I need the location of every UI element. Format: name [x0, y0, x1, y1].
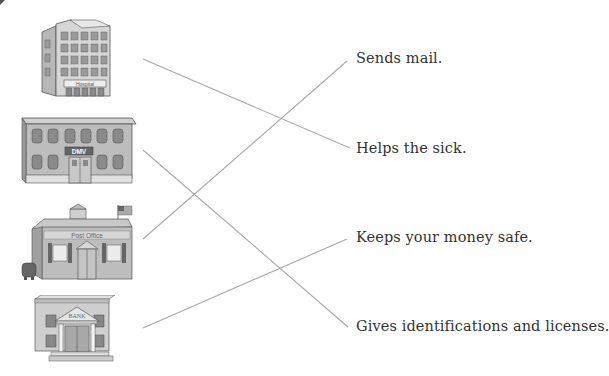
- svg-text:Post Office: Post Office: [71, 232, 103, 239]
- description-sends-mail[interactable]: Sends mail.: [356, 50, 443, 66]
- bank-icon[interactable]: BANK: [33, 295, 123, 365]
- match-line-bank-keeps-money[interactable]: [143, 239, 347, 328]
- description-helps-sick[interactable]: Helps the sick.: [356, 140, 467, 156]
- svg-text:BANK: BANK: [68, 313, 86, 319]
- dmv-icon[interactable]: DMV: [20, 115, 138, 187]
- description-keeps-money[interactable]: Keeps your money safe.: [356, 229, 533, 245]
- description-gives-ids[interactable]: Gives identifications and licenses.: [356, 318, 609, 334]
- match-line-post-office-sends-mail[interactable]: [143, 61, 347, 239]
- post-office-icon[interactable]: Post Office: [18, 203, 136, 281]
- match-line-dmv-gives-ids[interactable]: [143, 150, 348, 327]
- svg-text:Hospital: Hospital: [76, 81, 94, 87]
- svg-text:DMV: DMV: [72, 148, 87, 155]
- match-line-hospital-helps-sick[interactable]: [143, 59, 350, 148]
- hospital-icon[interactable]: Hospital: [38, 18, 116, 100]
